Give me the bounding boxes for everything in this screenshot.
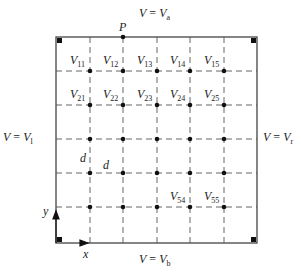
node-label-v21: V21 — [70, 88, 85, 103]
node-label-v12: V12 — [103, 54, 118, 69]
x-axis-label: x — [83, 248, 88, 260]
node-label-v13: V13 — [137, 54, 152, 69]
point-p-label: P — [119, 21, 126, 33]
node-label-v14: V14 — [170, 54, 185, 69]
bottom-boundary-label: V=Vb — [139, 253, 170, 268]
node-label-v11: V11 — [70, 54, 85, 69]
node-label-v23: V23 — [137, 88, 152, 103]
node-label-v54: V54 — [170, 190, 185, 205]
y-axis-label: y — [43, 205, 48, 217]
node-label-v22: V22 — [103, 88, 118, 103]
right-boundary-label: V=Vr — [263, 131, 293, 146]
grid-diagram — [0, 0, 301, 277]
point-p-dot — [121, 35, 126, 40]
node-label-v25: V25 — [204, 88, 219, 103]
spacing-label-vertical: d — [80, 152, 86, 164]
node-label-v15: V15 — [204, 54, 219, 69]
spacing-label-horizontal: d — [103, 159, 109, 171]
node-label-v55: V55 — [204, 190, 219, 205]
node-label-v24: V24 — [170, 88, 185, 103]
top-boundary-label: V=Va — [139, 7, 170, 22]
left-boundary-label: V=Vl — [3, 131, 33, 146]
